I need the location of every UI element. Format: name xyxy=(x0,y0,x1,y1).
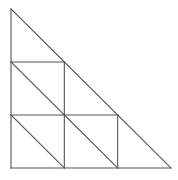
cell-diagonal xyxy=(11,62,64,115)
triangle-grid-diagram xyxy=(0,0,178,180)
cell-diagonal xyxy=(11,115,64,168)
triangle-hypotenuse xyxy=(11,9,171,168)
cell-diagonal xyxy=(64,115,117,168)
